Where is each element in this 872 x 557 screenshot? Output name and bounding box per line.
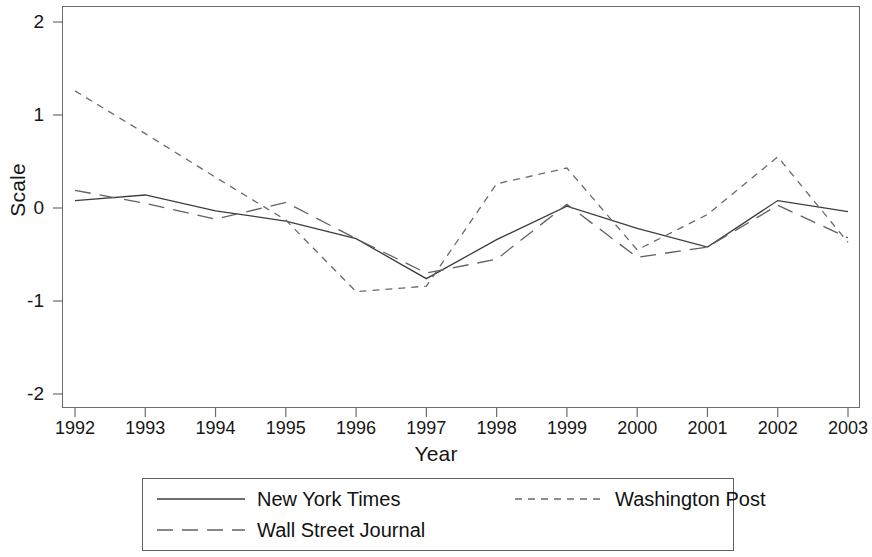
y-tick-label: -2 — [10, 384, 44, 403]
y-tick-label: 2 — [10, 12, 44, 31]
series-line — [75, 190, 848, 273]
x-axis-tick-labels: 1992199319941995199619971998199920002001… — [0, 418, 872, 444]
x-tick-label: 1996 — [326, 418, 386, 438]
legend-swatch-solid — [157, 492, 245, 506]
chart-legend: New York Times Washington Post Wall Stre… — [142, 478, 734, 551]
legend-item-washington-post: Washington Post — [515, 484, 765, 514]
x-tick-label: 2001 — [677, 418, 737, 438]
legend-label: New York Times — [257, 488, 400, 510]
legend-item-wall-street-journal: Wall Street Journal — [157, 515, 425, 545]
x-tick-label: 2003 — [818, 418, 872, 438]
x-axis-title: Year — [0, 442, 872, 466]
y-tick-label: 1 — [10, 105, 44, 124]
x-tick-label: 2002 — [748, 418, 808, 438]
plot-region: 210-1-2 Scale — [0, 0, 872, 420]
x-tick-label: 1999 — [537, 418, 597, 438]
series-paths — [75, 91, 848, 292]
series-line — [75, 91, 848, 292]
y-tick-label: -1 — [10, 291, 44, 310]
x-tick-label: 2000 — [607, 418, 667, 438]
x-tick-label: 1995 — [256, 418, 316, 438]
legend-swatch-dashed — [515, 492, 603, 506]
x-tick-label: 1997 — [396, 418, 456, 438]
chart-figure: 210-1-2 Scale 19921993199419951996199719… — [0, 0, 872, 557]
x-tick-label: 1992 — [45, 418, 105, 438]
y-axis-title: Scale — [6, 130, 30, 250]
axis-ticks — [53, 22, 848, 417]
plot-lines — [0, 0, 872, 420]
x-tick-label: 1993 — [115, 418, 175, 438]
x-tick-label: 1994 — [186, 418, 246, 438]
legend-label: Washington Post — [615, 488, 765, 510]
legend-item-new-york-times: New York Times — [157, 484, 400, 514]
legend-swatch-longdash — [157, 523, 245, 537]
legend-label: Wall Street Journal — [257, 519, 425, 541]
x-tick-label: 1998 — [467, 418, 527, 438]
